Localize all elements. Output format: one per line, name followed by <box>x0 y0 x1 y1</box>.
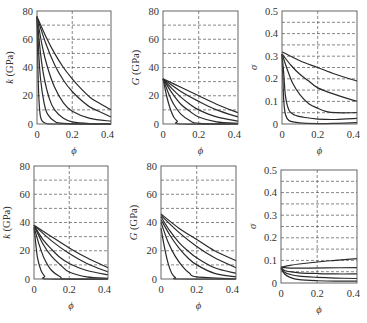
x-tick-label: 0.2 <box>63 284 76 295</box>
y-tick-label: 60 <box>147 189 158 200</box>
gridlines <box>163 11 238 124</box>
x-tick-label: 0.4 <box>347 129 361 140</box>
y-tick-label: 0 <box>28 119 33 130</box>
y-axis-label: σ <box>248 64 259 70</box>
y-tick-label: 80 <box>147 161 158 172</box>
y-tick-label: 0 <box>152 274 157 285</box>
y-tick-label: 0 <box>25 274 30 285</box>
y-tick-label: 0.4 <box>264 187 278 198</box>
line-curve-3 <box>163 79 238 123</box>
y-tick-label: 0 <box>273 119 278 130</box>
series <box>163 79 238 124</box>
y-tick-label: 0.3 <box>264 210 277 221</box>
x-axis-label: ϕ <box>196 300 202 311</box>
x-tick-label: 0.4 <box>228 129 242 140</box>
y-tick-label: 80 <box>20 161 31 172</box>
y-tick-label: 40 <box>147 217 158 228</box>
line-curve-4 <box>281 267 357 268</box>
multi-panel-chart: 02040608000.20.4ϕk (GPa)02040608000.20.4… <box>0 0 367 323</box>
x-axis-label: ϕ <box>317 145 323 156</box>
figure: 02040608000.20.4ϕk (GPa)02040608000.20.4… <box>0 0 367 323</box>
series <box>37 17 111 124</box>
y-tick-label: 0.3 <box>265 51 278 62</box>
series <box>34 225 108 279</box>
x-tick-label: 0 <box>278 288 283 299</box>
x-axis-label: ϕ <box>198 145 204 156</box>
y-tick-label: 40 <box>20 217 31 228</box>
line-curve-4 <box>37 17 111 122</box>
x-tick-label: 0 <box>158 284 163 295</box>
y-tick-label: 20 <box>147 245 158 256</box>
line-curve-5 <box>281 259 357 268</box>
series <box>281 259 357 282</box>
panel-bottom-right: 00.10.20.30.40.500.20.4ϕσ <box>247 165 361 316</box>
x-tick-label: 0.4 <box>347 288 361 299</box>
y-tick-label: 0.1 <box>264 255 277 266</box>
panel-bottom-left: 02040608000.20.4ϕk (GPa) <box>1 161 112 312</box>
x-tick-label: 0.2 <box>66 129 79 140</box>
x-tick-label: 0.2 <box>311 288 324 299</box>
panel-top-left: 02040608000.20.4ϕk (GPa) <box>4 6 115 157</box>
y-axis-label: σ <box>247 223 258 229</box>
line-curve-3 <box>34 225 108 278</box>
y-tick-label: 60 <box>23 34 34 45</box>
series <box>161 214 236 279</box>
x-tick-label: 0 <box>31 284 36 295</box>
y-tick-label: 80 <box>149 6 160 17</box>
x-tick-label: 0 <box>34 129 39 140</box>
x-tick-label: 0 <box>279 129 284 140</box>
y-tick-label: 60 <box>149 34 160 45</box>
y-tick-label: 20 <box>149 90 160 101</box>
y-axis-label: G (GPa) <box>128 204 140 240</box>
y-tick-label: 60 <box>20 189 31 200</box>
x-tick-label: 0.2 <box>311 129 324 140</box>
panel-bottom-middle: 02040608000.20.4ϕG (GPa) <box>128 161 240 312</box>
x-tick-label: 0.2 <box>190 284 203 295</box>
y-tick-label: 40 <box>149 62 160 73</box>
y-tick-label: 20 <box>20 245 31 256</box>
x-tick-label: 0.2 <box>192 129 205 140</box>
x-axis-label: ϕ <box>316 304 322 315</box>
line-curve-2 <box>282 54 357 120</box>
y-tick-label: 20 <box>23 90 34 101</box>
panel-top-middle: 02040608000.20.4ϕG (GPa) <box>130 6 242 157</box>
y-axis-label: k (GPa) <box>4 51 16 84</box>
line-curve-6 <box>161 214 236 261</box>
x-tick-label: 0.4 <box>98 284 112 295</box>
y-axis-label: G (GPa) <box>130 49 142 85</box>
y-tick-label: 0 <box>154 119 159 130</box>
y-tick-label: 0.1 <box>265 96 278 107</box>
x-axis-label: ϕ <box>68 300 74 311</box>
x-tick-label: 0.4 <box>226 284 240 295</box>
y-tick-label: 80 <box>23 6 34 17</box>
line-curve-5 <box>37 17 111 117</box>
x-axis-label: ϕ <box>71 145 77 156</box>
y-tick-label: 40 <box>23 62 34 73</box>
line-curve-3 <box>282 54 357 113</box>
y-tick-label: 0.2 <box>265 73 278 84</box>
y-tick-label: 0 <box>272 278 277 289</box>
gridlines <box>281 170 357 283</box>
y-tick-label: 0.5 <box>265 6 278 17</box>
line-curve-4 <box>163 79 238 121</box>
y-tick-label: 0.2 <box>264 232 277 243</box>
y-tick-label: 0.4 <box>265 28 279 39</box>
y-axis-label: k (GPa) <box>1 206 13 239</box>
panel-top-right: 00.10.20.30.40.500.20.4ϕσ <box>248 6 361 157</box>
x-tick-label: 0 <box>160 129 165 140</box>
x-tick-label: 0.4 <box>101 129 115 140</box>
line-curve-1 <box>161 228 236 279</box>
y-tick-label: 0.5 <box>264 165 277 176</box>
